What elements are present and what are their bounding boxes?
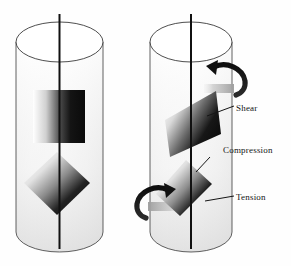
right-cylinder-twisted xyxy=(137,14,245,252)
top-arrow-shadow xyxy=(204,84,234,93)
left-cylinder-undeformed xyxy=(16,14,103,252)
torsion-diagram xyxy=(0,0,291,266)
shear-label: Shear xyxy=(236,103,258,113)
tension-label: Tension xyxy=(236,192,266,202)
compression-label: Compression xyxy=(223,145,273,155)
